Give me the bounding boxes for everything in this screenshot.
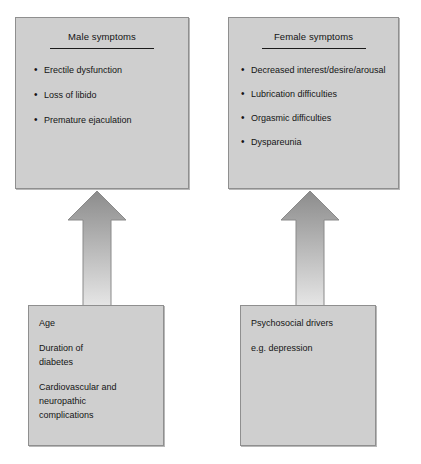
list-item: • Loss of libido [34,90,188,101]
driver-line: Duration of [39,343,163,354]
list-item-label: Lubrication difficulties [251,89,337,99]
list-item-label: Loss of libido [44,90,97,100]
bullet-icon: • [241,88,245,100]
list-item-label: Orgasmic difficulties [251,113,331,123]
right-up-arrow [279,190,341,310]
right-driver-box: Psychosocial drivers e.g. depression [240,305,376,446]
bullet-icon: • [34,114,38,126]
list-item: • Erectile dysfunction [34,65,188,76]
list-item: • Dyspareunia [241,137,398,148]
left-up-arrow [66,190,128,310]
left-driver-box: Age Duration of diabetes Cardiovascular … [28,305,164,446]
driver-line: Age [39,318,163,329]
driver-line: Cardiovascular and [39,382,163,393]
male-symptoms-list: • Erectile dysfunction • Loss of libido … [34,65,188,126]
list-item: • Orgasmic difficulties [241,113,398,124]
left-driver-lines: Age Duration of diabetes Cardiovascular … [39,318,163,421]
list-item-label: Erectile dysfunction [44,65,122,75]
male-title-underline [50,48,154,49]
driver-line: neuropathic [39,396,163,407]
driver-line: diabetes [39,357,163,368]
bullet-icon: • [241,112,245,124]
female-symptoms-list: • Decreased interest/desire/arousal • Lu… [241,65,398,148]
bullet-icon: • [241,64,245,76]
bullet-icon: • [34,64,38,76]
male-symptoms-box: Male symptoms • Erectile dysfunction • L… [15,17,189,189]
list-item-label: Dyspareunia [251,137,302,147]
male-symptoms-title: Male symptoms [16,31,188,42]
female-title-underline [262,48,366,49]
driver-line: complications [39,410,163,421]
bullet-icon: • [241,136,245,148]
list-item: • Lubrication difficulties [241,89,398,100]
list-item-label: Decreased interest/desire/arousal [251,65,386,75]
bullet-icon: • [34,89,38,101]
list-item: • Premature ejaculation [34,115,188,126]
female-symptoms-box: Female symptoms • Decreased interest/des… [228,17,399,189]
driver-line: Psychosocial drivers [251,318,375,329]
list-item-label: Premature ejaculation [44,115,132,125]
female-symptoms-title: Female symptoms [229,31,398,42]
list-item: • Decreased interest/desire/arousal [241,65,398,76]
right-driver-lines: Psychosocial drivers e.g. depression [251,318,375,354]
driver-line: e.g. depression [251,343,375,354]
diagram-canvas: Male symptoms • Erectile dysfunction • L… [0,0,421,464]
